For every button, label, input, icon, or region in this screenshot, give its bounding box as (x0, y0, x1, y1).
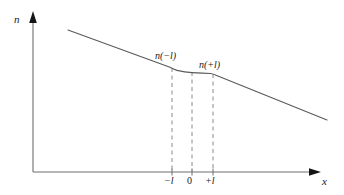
tick-label-minus-l: −l (164, 176, 174, 186)
plot-canvas (0, 0, 344, 195)
x-axis-arrowhead (309, 168, 321, 176)
y-axis-label: n (14, 14, 20, 25)
tick-label-zero: 0 (187, 176, 192, 186)
n-minus-l-label: n(−l) (155, 51, 176, 61)
concentration-curve (68, 30, 327, 120)
tick-label-plus-l: +l (205, 176, 215, 186)
figure-container: n x −l 0 +l n(−l) n(+l) (0, 0, 344, 195)
y-axis-arrowhead (29, 11, 37, 23)
x-axis-label: x (322, 176, 327, 187)
n-plus-l-label: n(+l) (199, 60, 220, 70)
